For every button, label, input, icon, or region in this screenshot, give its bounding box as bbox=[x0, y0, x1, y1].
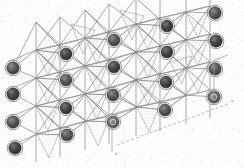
atom-sphere bbox=[5, 86, 21, 102]
atom-body bbox=[107, 116, 119, 128]
atom-sphere bbox=[59, 127, 74, 142]
atom-body bbox=[9, 142, 21, 154]
atom-body bbox=[108, 34, 120, 46]
atom-body bbox=[7, 62, 19, 74]
atom-body bbox=[160, 76, 172, 88]
atom-sphere bbox=[159, 44, 174, 59]
polyhedron-face bbox=[36, 100, 60, 131]
atom-sphere bbox=[5, 114, 21, 130]
atom-sphere bbox=[58, 100, 73, 115]
atom-body bbox=[60, 74, 72, 86]
atom-sphere bbox=[158, 74, 173, 89]
axis-label-b: b bbox=[115, 151, 118, 156]
atom-body bbox=[61, 129, 73, 141]
atom-sphere bbox=[207, 5, 223, 21]
atom-body bbox=[161, 20, 173, 32]
atom-sphere bbox=[159, 18, 174, 33]
atom-sphere bbox=[157, 102, 172, 117]
atom-sphere bbox=[5, 60, 21, 76]
atom-body bbox=[108, 61, 120, 73]
atom-sphere bbox=[58, 46, 73, 61]
atom-body bbox=[161, 46, 173, 58]
atom-sphere bbox=[105, 87, 120, 102]
atom-sphere bbox=[106, 59, 121, 74]
atom-sphere bbox=[58, 72, 73, 87]
atom-body bbox=[60, 48, 72, 60]
atom-sphere bbox=[105, 114, 120, 129]
axis-label-a: a bbox=[231, 98, 234, 103]
atom-body bbox=[209, 63, 221, 75]
crystal-structure-canvas: bac bbox=[0, 0, 244, 168]
atom-sphere bbox=[208, 33, 224, 49]
atom-body bbox=[107, 89, 119, 101]
atom-body bbox=[7, 116, 19, 128]
atom-sphere bbox=[7, 140, 23, 156]
atom-body bbox=[210, 35, 222, 47]
atom-sphere bbox=[106, 32, 121, 47]
atom-body bbox=[60, 102, 72, 114]
polyhedron-face bbox=[37, 128, 61, 158]
atom-sphere bbox=[207, 61, 223, 77]
atom-body bbox=[209, 7, 221, 19]
crystal-structure-figure: bac bbox=[0, 0, 244, 168]
atom-body bbox=[7, 88, 19, 100]
atom-body bbox=[159, 104, 171, 116]
